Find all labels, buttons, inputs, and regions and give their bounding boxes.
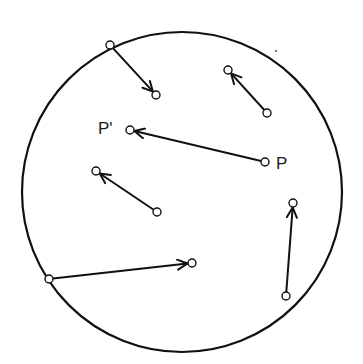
- arrow-1-start-point: [106, 41, 114, 49]
- arrow-6-start-point: [282, 292, 290, 300]
- points-layer: [45, 41, 297, 300]
- arrow-4-end-point: [92, 167, 100, 175]
- arrow-4-line: [100, 174, 154, 210]
- arrow-5-end-point: [188, 259, 196, 267]
- arrow-5-line: [53, 264, 188, 279]
- arrow-p-end-point: [126, 126, 134, 134]
- arrow-1-line: [113, 48, 153, 92]
- boundary-circle: [22, 32, 342, 352]
- arrow-5-start-point: [45, 275, 53, 283]
- point-p-prime-label: P': [98, 119, 113, 138]
- arrow-2-line: [231, 73, 264, 110]
- stray-dot: [275, 50, 277, 52]
- arrow-2-end-point: [224, 66, 232, 74]
- arrow-2-start-point: [263, 109, 271, 117]
- arrow-1-end-point: [152, 91, 160, 99]
- arrow-p-start-point: [261, 158, 269, 166]
- vector-displacement-diagram: P'P: [0, 0, 363, 364]
- arrow-p-line: [134, 131, 261, 161]
- arrows-layer: [53, 48, 293, 292]
- point-p-label: P: [276, 154, 287, 173]
- arrow-6-line: [286, 207, 292, 292]
- arrow-4-start-point: [153, 208, 161, 216]
- arrow-6-end-point: [289, 199, 297, 207]
